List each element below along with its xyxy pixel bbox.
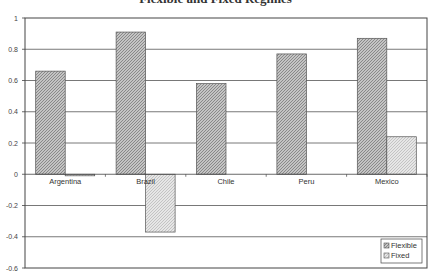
bar-flexible-argentina (36, 71, 65, 174)
bar-flexible-mexico (357, 38, 387, 174)
x-category-label: Argentina (49, 177, 82, 186)
y-tick-label: -0.4 (6, 233, 18, 240)
legend-label-flexible: Flexible (391, 241, 417, 250)
legend-swatch-flexible (384, 243, 389, 248)
x-category-label: Brazil (136, 177, 155, 186)
y-tick-label: -0.2 (6, 202, 18, 209)
bar-fixed-mexico (387, 137, 417, 175)
y-tick-label: 0.6 (8, 77, 18, 84)
legend-label-fixed: Fixed (391, 251, 409, 260)
y-tick-label: 0 (14, 171, 18, 178)
x-category-label: Peru (298, 177, 314, 186)
bar-flexible-chile (197, 84, 227, 175)
y-tick-label: 1 (14, 15, 18, 22)
bar-flexible-peru (277, 54, 307, 174)
legend: FlexibleFixed (381, 239, 422, 263)
x-category-label: Mexico (375, 177, 399, 186)
bars (36, 32, 417, 232)
bar-chart: 10.80.60.40.20-0.2-0.4-0.6ArgentinaBrazi… (0, 0, 431, 273)
y-tick-label: 0.2 (8, 140, 18, 147)
bar-flexible-brazil (116, 32, 146, 174)
y-tick-label: 0.8 (8, 46, 18, 53)
y-tick-label: 0.4 (8, 108, 18, 115)
legend-swatch-fixed (384, 253, 389, 258)
y-tick-label: -0.6 (6, 265, 18, 272)
x-category-label: Chile (217, 177, 234, 186)
